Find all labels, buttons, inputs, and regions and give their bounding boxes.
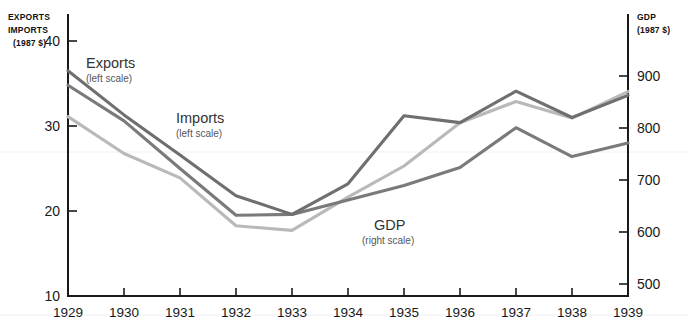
plot-axes <box>68 14 628 296</box>
imports-sublabel: (left scale) <box>176 128 222 139</box>
x-tick-1939: 1939 <box>613 305 643 320</box>
x-tick-1932: 1932 <box>221 305 251 320</box>
series-line-gdp <box>68 92 628 231</box>
right-axis-title-line1: GDP <box>637 12 656 22</box>
exports-sublabel: (left scale) <box>86 73 132 84</box>
x-tick-1938: 1938 <box>557 305 587 320</box>
annotation-imports: Imports (left scale) <box>176 110 224 139</box>
x-tick-1937: 1937 <box>501 305 531 320</box>
right-tick-600: 600 <box>637 224 661 240</box>
right-tick-800: 800 <box>637 120 661 136</box>
x-tick-1931: 1931 <box>165 305 195 320</box>
gdp-label: GDP <box>374 217 405 233</box>
left-axis-title-line3: (1987 $) <box>13 38 46 48</box>
right-tick-500: 500 <box>637 276 661 292</box>
right-tick-700: 700 <box>637 172 661 188</box>
right-tick-900: 900 <box>637 68 661 84</box>
gdp-sublabel: (right scale) <box>362 235 414 246</box>
x-tick-1935: 1935 <box>389 305 419 320</box>
x-tick-1934: 1934 <box>333 305 364 320</box>
chart-container: EXPORTS IMPORTS (1987 $) GDP (1987 $) 40… <box>0 0 689 332</box>
data-series-group <box>68 71 628 231</box>
right-axis-title-line2: (1987 $) <box>637 25 670 35</box>
x-tick-1933: 1933 <box>277 305 307 320</box>
left-axis-title-line1: EXPORTS <box>8 12 50 22</box>
exports-label: Exports <box>86 55 135 71</box>
left-axis-title-line2: IMPORTS <box>8 25 48 35</box>
x-tick-1936: 1936 <box>445 305 475 320</box>
left-tick-10: 10 <box>44 288 60 304</box>
annotation-gdp: GDP (right scale) <box>362 217 414 246</box>
left-tick-30: 30 <box>44 118 60 134</box>
right-axis-ticks: 900800700600500 <box>619 68 661 292</box>
annotation-exports: Exports (left scale) <box>86 55 135 84</box>
x-tick-1929: 1929 <box>53 305 83 320</box>
line-chart: EXPORTS IMPORTS (1987 $) GDP (1987 $) 40… <box>0 0 689 332</box>
imports-label: Imports <box>176 110 224 126</box>
left-tick-20: 20 <box>44 203 60 219</box>
x-tick-1930: 1930 <box>109 305 139 320</box>
left-tick-40: 40 <box>44 33 60 49</box>
